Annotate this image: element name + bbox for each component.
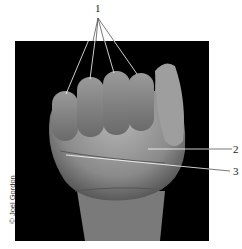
anatomy-figure: 1 2 3 © Joel Gordon — [0, 0, 242, 249]
leader-lines — [0, 0, 242, 249]
photo-credit: © Joel Gordon — [8, 160, 17, 240]
callout-label-2: 2 — [233, 144, 239, 155]
callout-label-3: 3 — [233, 166, 239, 177]
callout-label-1: 1 — [95, 3, 101, 14]
